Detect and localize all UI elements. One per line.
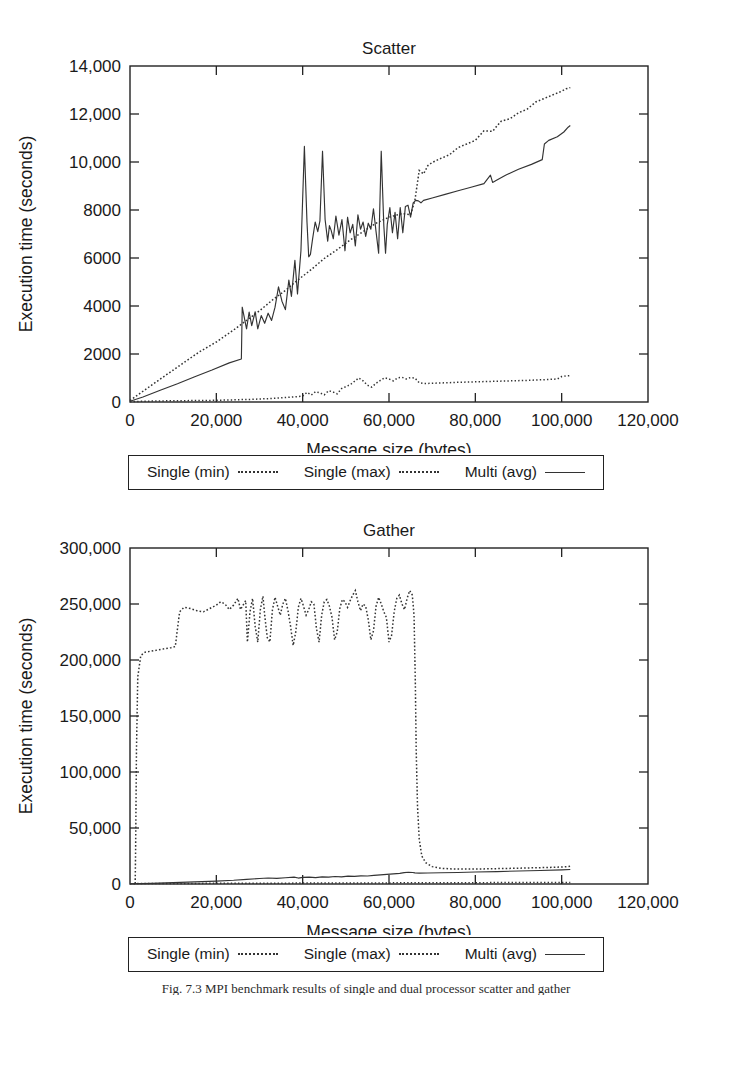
- legend-gather: Single (min) Single (max) Multi (avg): [128, 937, 604, 972]
- x-tick-label: 120,000: [617, 411, 678, 430]
- legend-swatch-dotted-icon: [238, 953, 278, 955]
- legend-swatch-solid-icon: [545, 954, 585, 955]
- legend-label-multi-avg: Multi (avg): [465, 945, 537, 963]
- y-tick-label: 150,000: [60, 707, 121, 726]
- y-tick-label: 10,000: [69, 153, 121, 172]
- y-tick-label: 14,000: [69, 57, 121, 76]
- y-axis-title: Execution time (seconds): [16, 618, 36, 814]
- y-tick-label: 250,000: [60, 595, 121, 614]
- figure-caption: Fig. 7.3 MPI benchmark results of single…: [0, 981, 732, 995]
- series-line-multi-avg: [130, 126, 570, 402]
- x-tick-label: 60,000: [363, 893, 415, 912]
- chart-title: Scatter: [362, 39, 416, 58]
- x-tick-label: 120,000: [617, 893, 678, 912]
- x-tick-label: 60,000: [363, 411, 415, 430]
- x-tick-label: 100,000: [531, 411, 592, 430]
- legend-swatch-dotted-icon: [399, 471, 439, 473]
- legend-label-single-max: Single (max): [304, 945, 391, 963]
- chart-title: Gather: [363, 521, 415, 540]
- legend-scatter: Single (min) Single (max) Multi (avg): [128, 455, 604, 490]
- legend-swatch-solid-icon: [545, 472, 585, 473]
- legend-swatch-dotted-icon: [238, 471, 278, 473]
- legend-wrap-scatter: Single (min) Single (max) Multi (avg): [0, 455, 732, 490]
- scatter-chart-svg: Scatter0200040006000800010,00012,00014,0…: [0, 8, 732, 453]
- legend-label-single-min: Single (min): [147, 463, 230, 481]
- legend-entry-single-min: Single (min): [147, 945, 278, 963]
- y-axis-title: Execution time (seconds): [16, 136, 36, 332]
- series-line-single-max: [130, 88, 570, 401]
- y-tick-label: 12,000: [69, 105, 121, 124]
- y-tick-label: 100,000: [60, 763, 121, 782]
- x-tick-label: 40,000: [277, 411, 329, 430]
- x-axis-title: Message size (bytes): [306, 440, 471, 453]
- figure-container: Scatter0200040006000800010,00012,00014,0…: [0, 0, 732, 1070]
- legend-entry-single-max: Single (max): [304, 463, 439, 481]
- x-tick-label: 0: [125, 893, 134, 912]
- chart-panel-scatter: Scatter0200040006000800010,00012,00014,0…: [0, 8, 732, 453]
- y-tick-label: 300,000: [60, 539, 121, 558]
- legend-swatch-dotted-icon: [399, 953, 439, 955]
- y-tick-label: 0: [112, 875, 121, 894]
- legend-wrap-gather: Single (min) Single (max) Multi (avg): [0, 937, 732, 972]
- x-tick-label: 20,000: [190, 411, 242, 430]
- series-line-multi-avg: [130, 870, 570, 884]
- x-tick-label: 0: [125, 411, 134, 430]
- legend-label-single-max: Single (max): [304, 463, 391, 481]
- legend-entry-multi-avg: Multi (avg): [465, 463, 585, 481]
- plot-frame: [130, 548, 648, 884]
- x-tick-label: 40,000: [277, 893, 329, 912]
- y-tick-label: 6000: [83, 249, 121, 268]
- series-line-single-min: [130, 376, 570, 402]
- y-tick-label: 0: [112, 393, 121, 412]
- y-tick-label: 50,000: [69, 819, 121, 838]
- x-tick-label: 20,000: [190, 893, 242, 912]
- y-tick-label: 4000: [83, 297, 121, 316]
- legend-entry-single-min: Single (min): [147, 463, 278, 481]
- y-tick-label: 200,000: [60, 651, 121, 670]
- chart-panel-gather: Gather050,000100,000150,000200,000250,00…: [0, 490, 732, 935]
- legend-label-single-min: Single (min): [147, 945, 230, 963]
- series-line-single-max: [135, 591, 570, 884]
- x-tick-label: 80,000: [449, 411, 501, 430]
- y-tick-label: 8000: [83, 201, 121, 220]
- gather-chart-svg: Gather050,000100,000150,000200,000250,00…: [0, 490, 732, 935]
- x-tick-label: 80,000: [449, 893, 501, 912]
- plot-frame: [130, 66, 648, 402]
- x-tick-label: 100,000: [531, 893, 592, 912]
- legend-entry-single-max: Single (max): [304, 945, 439, 963]
- y-tick-label: 2000: [83, 345, 121, 364]
- x-axis-title: Message size (bytes): [306, 922, 471, 935]
- legend-label-multi-avg: Multi (avg): [465, 463, 537, 481]
- legend-entry-multi-avg: Multi (avg): [465, 945, 585, 963]
